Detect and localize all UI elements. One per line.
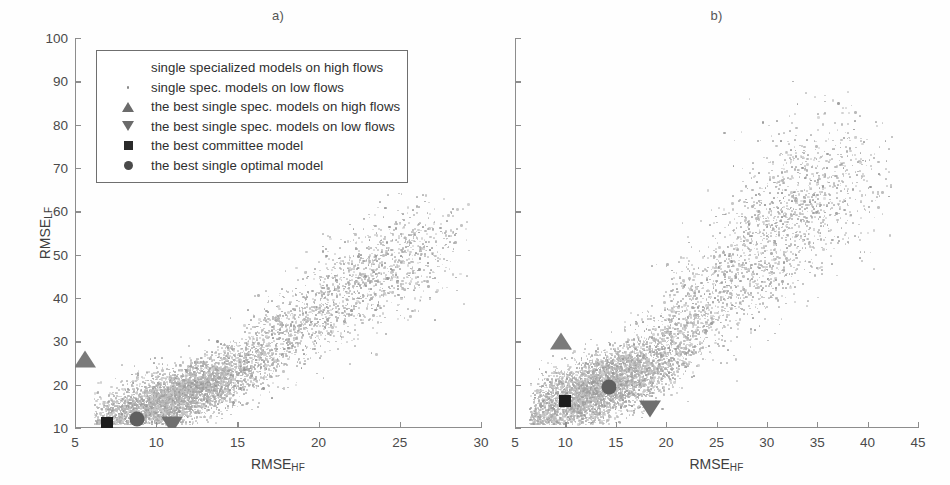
scatter-point — [786, 162, 788, 164]
scatter-point — [686, 257, 688, 259]
scatter-point — [189, 413, 191, 415]
scatter-point — [726, 286, 728, 288]
scatter-point — [640, 385, 642, 387]
scatter-point — [619, 403, 621, 405]
scatter-point — [621, 375, 623, 377]
scatter-point — [347, 326, 349, 328]
scatter-point — [389, 288, 391, 290]
scatter-point — [794, 286, 796, 288]
scatter-point — [668, 366, 670, 368]
scatter-point — [749, 242, 751, 244]
scatter-point — [808, 244, 810, 246]
scatter-point — [342, 297, 344, 299]
scatter-point — [278, 360, 280, 362]
scatter-point — [649, 318, 651, 320]
scatter-point — [306, 306, 308, 308]
scatter-point — [785, 151, 787, 153]
scatter-point — [646, 341, 648, 343]
scatter-point — [717, 295, 719, 297]
scatter-point — [288, 334, 290, 336]
scatter-point — [821, 273, 823, 275]
scatter-point — [812, 212, 814, 214]
scatter-point — [557, 398, 559, 400]
scatter-point — [331, 314, 333, 316]
scatter-point — [156, 393, 158, 395]
scatter-point — [387, 194, 389, 196]
scatter-point — [368, 258, 370, 260]
scatter-point — [825, 237, 827, 239]
scatter-point — [650, 315, 652, 317]
scatter-point — [180, 356, 182, 358]
scatter-point — [855, 158, 857, 160]
scatter-point — [239, 361, 241, 363]
scatter-point — [290, 314, 292, 316]
scatter-point — [314, 299, 316, 301]
scatter-point — [806, 305, 808, 307]
scatter-point — [608, 373, 610, 375]
scatter-point — [772, 140, 774, 142]
scatter-point — [790, 265, 792, 267]
scatter-point — [220, 394, 222, 396]
scatter-point — [619, 399, 621, 401]
scatter-point — [819, 216, 821, 218]
scatter-point — [234, 346, 236, 348]
scatter-point — [399, 304, 401, 306]
scatter-point — [148, 399, 150, 401]
scatter-point — [769, 178, 771, 180]
scatter-point — [744, 205, 746, 207]
scatter-point — [794, 272, 796, 274]
scatter-point — [854, 111, 856, 113]
scatter-point — [194, 409, 196, 411]
scatter-point — [683, 357, 685, 359]
scatter-point — [809, 201, 811, 203]
scatter-point — [213, 411, 215, 413]
scatter-point — [250, 328, 252, 330]
scatter-point — [715, 248, 717, 250]
scatter-point — [810, 134, 812, 136]
scatter-point — [678, 305, 680, 307]
scatter-point — [636, 349, 638, 351]
scatter-point — [816, 158, 818, 160]
scatter-point — [184, 394, 186, 396]
scatter-point — [379, 201, 381, 203]
scatter-point — [230, 414, 232, 416]
scatter-point — [778, 228, 780, 230]
scatter-point — [695, 335, 697, 337]
scatter-point — [625, 341, 627, 343]
scatter-point — [136, 379, 138, 381]
scatter-point — [542, 423, 544, 425]
scatter-point — [713, 280, 715, 282]
scatter-point — [326, 330, 328, 332]
scatter-point — [865, 160, 867, 162]
scatter-point — [760, 260, 762, 262]
scatter-point — [700, 354, 702, 356]
scatter-point — [863, 205, 865, 207]
scatter-point — [339, 257, 341, 259]
scatter-point — [885, 140, 887, 142]
scatter-point — [362, 281, 364, 283]
scatter-point — [360, 296, 362, 298]
scatter-point — [407, 277, 409, 279]
scatter-point — [236, 392, 238, 394]
scatter-point — [682, 333, 684, 335]
scatter-point — [383, 238, 385, 240]
scatter-point — [840, 142, 842, 144]
scatter-point — [651, 305, 653, 307]
scatter-point — [194, 417, 196, 419]
scatter-point — [287, 291, 289, 293]
scatter-point — [542, 375, 544, 377]
scatter-point — [354, 345, 356, 347]
scatter-point — [819, 235, 821, 237]
scatter-point — [741, 131, 743, 133]
scatter-point — [715, 251, 717, 253]
scatter-point — [675, 350, 677, 352]
scatter-point — [701, 352, 703, 354]
scatter-point — [416, 237, 418, 239]
scatter-point — [320, 299, 322, 301]
scatter-point — [824, 151, 826, 153]
scatter-point — [269, 365, 271, 367]
scatter-point — [384, 236, 386, 238]
scatter-point — [384, 266, 386, 268]
scatter-point — [320, 355, 322, 357]
scatter-point — [248, 332, 250, 334]
